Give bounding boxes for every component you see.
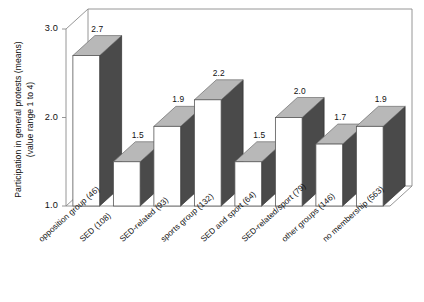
bar-series bbox=[73, 36, 405, 206]
chart-container: Participation in general protests (means… bbox=[0, 0, 424, 302]
bar-value-label: 1.5 bbox=[125, 130, 151, 140]
bar-value-label: 2.7 bbox=[84, 24, 110, 34]
y-axis-tick-label: 1.0 bbox=[32, 200, 58, 210]
bar-value-label: 1.9 bbox=[165, 94, 191, 104]
bar-chart-3d bbox=[0, 0, 424, 302]
bar-value-label: 1.5 bbox=[246, 130, 272, 140]
bar-value-label: 2.2 bbox=[206, 68, 232, 78]
y-axis-tick-label: 3.0 bbox=[32, 23, 58, 33]
bar-value-label: 1.9 bbox=[368, 94, 394, 104]
bar-value-label: 2.0 bbox=[287, 86, 313, 96]
bar-value-label: 1.7 bbox=[327, 112, 353, 122]
y-axis-tick-label: 2.0 bbox=[32, 112, 58, 122]
y-axis-title-line-1: Participation in general protests (means… bbox=[13, 10, 25, 230]
